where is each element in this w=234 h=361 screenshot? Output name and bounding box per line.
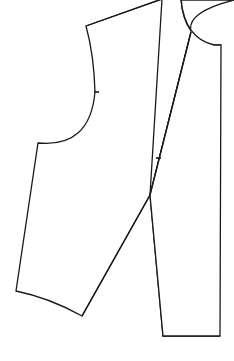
pattern-overlay bbox=[0, 0, 234, 361]
